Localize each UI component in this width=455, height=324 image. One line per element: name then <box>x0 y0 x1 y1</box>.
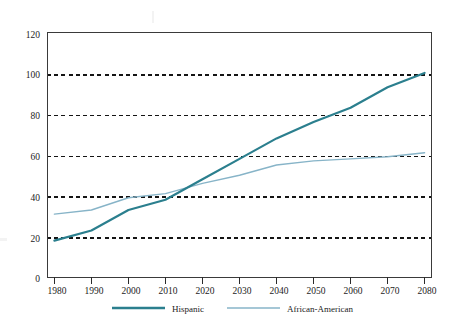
ytick-label-60: 60 <box>31 152 41 162</box>
line-chart: 120 100 80 60 40 20 0 1980 1990 2000 201… <box>0 0 455 324</box>
xtick-label-2000: 2000 <box>122 286 141 296</box>
xtick-label-2010: 2010 <box>159 286 178 296</box>
xtick-label-2030: 2030 <box>233 286 252 296</box>
ytick-label-20: 20 <box>31 234 41 244</box>
chart-figure: 120 100 80 60 40 20 0 1980 1990 2000 201… <box>0 0 455 324</box>
xtick-label-2080: 2080 <box>418 286 437 296</box>
chart-legend: Hispanic African-American <box>112 304 353 314</box>
xtick-label-2050: 2050 <box>307 286 326 296</box>
ytick-label-120: 120 <box>26 30 41 40</box>
ytick-label-80: 80 <box>31 111 41 121</box>
yaxis-tick-labels: 120 100 80 60 40 20 0 <box>26 30 41 285</box>
plot-background <box>47 32 432 277</box>
legend-label-hispanic: Hispanic <box>172 304 204 314</box>
xtick-label-1980: 1980 <box>48 286 67 296</box>
xtick-label-2040: 2040 <box>270 286 289 296</box>
xtick-label-2060: 2060 <box>344 286 363 296</box>
ytick-label-0: 0 <box>35 274 40 284</box>
xtick-label-1990: 1990 <box>85 286 104 296</box>
ytick-label-40: 40 <box>31 193 41 203</box>
xtick-label-2070: 2070 <box>381 286 400 296</box>
xtick-label-2020: 2020 <box>196 286 215 296</box>
xaxis-tick-labels: 1980 1990 2000 2010 2020 2030 2040 2050 … <box>48 286 437 296</box>
ytick-label-100: 100 <box>26 70 41 80</box>
legend-label-african-american: African-American <box>287 304 353 314</box>
